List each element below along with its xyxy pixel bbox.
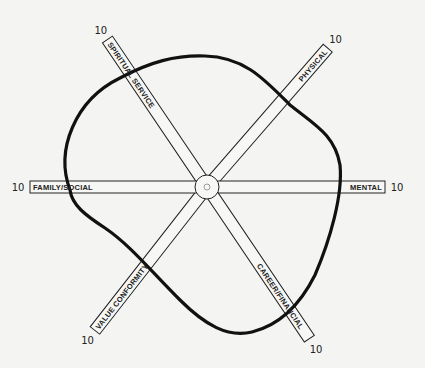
center-hub bbox=[195, 175, 219, 199]
max-value-spiritual-service: 10 bbox=[94, 25, 107, 36]
max-value-mental: 10 bbox=[391, 182, 404, 193]
max-value-career-financial: 10 bbox=[310, 344, 323, 355]
max-value-value-conformity: 10 bbox=[81, 335, 94, 346]
spoke-label-physical: PHYSICAL bbox=[297, 48, 330, 84]
spoke-label-career-financial: CAREER/FINANCIAL bbox=[255, 262, 306, 331]
wheel-svg: SPIRITUAL SERVICE10PHYSICAL10MENTAL10CAR… bbox=[0, 0, 425, 368]
spoke-label-value-conformity: VALUE CONFORMITY bbox=[94, 262, 151, 331]
max-value-family-social: 10 bbox=[12, 182, 25, 193]
spoke-label-family-social: FAMILY/SOCIAL bbox=[33, 183, 93, 192]
wellness-wheel-diagram: SPIRITUAL SERVICE10PHYSICAL10MENTAL10CAR… bbox=[0, 0, 425, 368]
spoke-label-spiritual-service: SPIRITUAL SERVICE bbox=[106, 41, 157, 110]
max-value-physical: 10 bbox=[329, 34, 342, 45]
spoke-label-mental: MENTAL bbox=[350, 183, 382, 192]
